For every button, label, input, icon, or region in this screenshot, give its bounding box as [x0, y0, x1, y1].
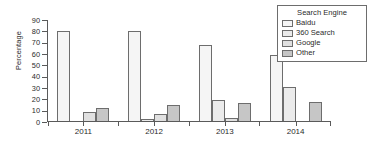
bar-slot: [128, 20, 141, 121]
bar-group-2013: [190, 20, 261, 121]
x-tick-2012: 2012: [119, 122, 190, 138]
bar-slot: [238, 20, 251, 121]
legend-swatch-icon: [282, 40, 293, 47]
bar-slot: [96, 20, 109, 121]
x-tick-label: 2011: [48, 127, 119, 136]
y-tick-90: 90: [42, 20, 47, 21]
x-tick-mark: [296, 122, 297, 126]
y-tick-0: 0: [42, 122, 47, 123]
bar-slot: [167, 20, 180, 121]
y-tick-70: 70: [42, 43, 47, 44]
x-tick-edge: [48, 122, 49, 126]
y-tick-50: 50: [42, 65, 47, 66]
legend-swatch-icon: [282, 30, 293, 37]
legend-label: 360 Search: [296, 29, 335, 37]
bar-baidu-2012[interactable]: [128, 31, 141, 121]
bar-baidu-2014[interactable]: [270, 55, 283, 121]
legend-item-other[interactable]: Other: [282, 48, 362, 58]
y-tick-label: 30: [32, 85, 40, 92]
bar-other-2013[interactable]: [238, 103, 251, 121]
legend-title: Search Engine: [282, 8, 362, 17]
legend-label: Other: [296, 49, 315, 57]
bar-360-search-2013[interactable]: [212, 100, 225, 121]
bar-google-2013[interactable]: [225, 118, 238, 121]
legend-item-google[interactable]: Google: [282, 38, 362, 48]
y-tick-label: 50: [32, 62, 40, 69]
x-tick-2013: 2013: [190, 122, 261, 138]
x-tick-mark: [83, 122, 84, 126]
bar-slot: [154, 20, 167, 121]
bar-slot: [225, 20, 238, 121]
y-tick-label: 80: [32, 28, 40, 35]
y-tick-40: 40: [42, 77, 47, 78]
bar-chart-figure: Percentage 0102030405060708090 201120122…: [0, 0, 373, 152]
x-tick-label: 2014: [260, 127, 331, 136]
bar-slot: [212, 20, 225, 121]
bar-360-search-2014[interactable]: [283, 87, 296, 121]
x-tick-label: 2012: [119, 127, 190, 136]
y-axis-title: Percentage: [14, 16, 23, 86]
x-tick-edge: [330, 122, 331, 126]
x-tick-label: 2013: [190, 127, 261, 136]
y-tick-80: 80: [42, 31, 47, 32]
x-axis-ticks: 2011201220132014: [48, 122, 331, 138]
y-tick-label: 0: [36, 119, 40, 126]
bar-google-2011[interactable]: [83, 112, 96, 121]
bar-slot: [141, 20, 154, 121]
bar-baidu-2011[interactable]: [57, 31, 70, 121]
y-tick-label: 40: [32, 73, 40, 80]
legend-label: Google: [296, 39, 321, 47]
legend-swatch-icon: [282, 20, 293, 27]
bar-group-2012: [119, 20, 190, 121]
y-tick-label: 90: [32, 17, 40, 24]
bar-other-2011[interactable]: [96, 108, 109, 121]
legend-entries: Baidu360 SearchGoogleOther: [282, 18, 362, 58]
x-tick-2011: 2011: [48, 122, 119, 138]
legend-swatch-icon: [282, 50, 293, 57]
x-tick-mark: [225, 122, 226, 126]
bar-google-2012[interactable]: [154, 114, 167, 121]
y-tick-10: 10: [42, 111, 47, 112]
y-tick-label: 60: [32, 51, 40, 58]
bar-slot: [57, 20, 70, 121]
bar-slot: [70, 20, 83, 121]
y-tick-label: 10: [32, 107, 40, 114]
legend-item-baidu[interactable]: Baidu: [282, 18, 362, 28]
bar-other-2014[interactable]: [309, 102, 322, 121]
bar-slot: [199, 20, 212, 121]
legend-label: Baidu: [296, 19, 315, 27]
bar-other-2012[interactable]: [167, 105, 180, 121]
y-tick-60: 60: [42, 54, 47, 55]
bar-slot: [83, 20, 96, 121]
legend: Search Engine Baidu360 SearchGoogleOther: [277, 5, 367, 62]
legend-item-360-search[interactable]: 360 Search: [282, 28, 362, 38]
x-tick-mark: [154, 122, 155, 126]
y-tick-30: 30: [42, 88, 47, 89]
bar-360-search-2012[interactable]: [141, 119, 154, 121]
y-tick-20: 20: [42, 99, 47, 100]
y-tick-label: 70: [32, 39, 40, 46]
x-tick-2014: 2014: [260, 122, 331, 138]
bar-group-2011: [48, 20, 119, 121]
y-tick-label: 20: [32, 96, 40, 103]
bar-baidu-2013[interactable]: [199, 45, 212, 121]
